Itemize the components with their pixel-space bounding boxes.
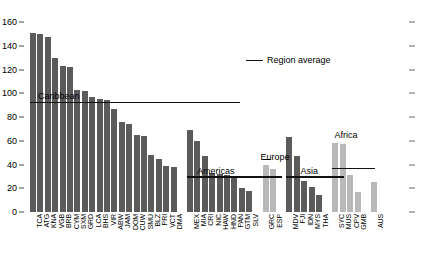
bar [355, 192, 361, 212]
y-axis-tick-mark [19, 93, 24, 94]
y-axis-tick-mark [19, 212, 24, 213]
bar-series [30, 22, 418, 212]
x-axis-category-label: BLZ [154, 214, 161, 227]
legend-label-region-average: Region average [267, 56, 331, 65]
y-axis-tick-mark [19, 45, 24, 46]
x-axis-category-label: CPV [353, 214, 360, 228]
bar [104, 100, 110, 212]
bar [111, 109, 117, 212]
x-axis-category-label: ATG [43, 214, 50, 228]
region-average-line [332, 168, 374, 169]
group-label-americas: Americas [197, 167, 235, 176]
y-axis-tick-label: 40 [7, 160, 17, 169]
bar [309, 187, 315, 212]
bar [97, 99, 103, 212]
group-label-europe: Europe [261, 153, 290, 162]
x-axis-category-label: SMU [147, 214, 154, 229]
x-axis-category-label: VGB [58, 214, 65, 228]
group-label-caribbean: Caribbean [38, 92, 80, 101]
region-average-line-icon [246, 60, 263, 62]
bar [156, 159, 162, 212]
bar [37, 34, 43, 212]
bar [148, 155, 154, 212]
y-axis-tick-mark [19, 164, 24, 165]
y-axis-tick-label: 160 [2, 18, 17, 27]
y-axis-tick-mark [19, 22, 24, 23]
x-axis-category-label: DMA [176, 214, 183, 229]
x-axis-category-label: MEX [193, 214, 200, 229]
y-axis-tick-label: 80 [7, 113, 17, 122]
x-axis-category-label: BRB [65, 214, 72, 228]
x-axis-category-label: SLV [252, 214, 259, 226]
region-average-line [187, 176, 282, 177]
bar [347, 175, 353, 212]
x-axis-category-label: CYM [73, 214, 80, 229]
bar [187, 130, 193, 212]
bar [163, 166, 169, 212]
bar [67, 67, 73, 212]
bar [217, 174, 223, 212]
plot-area: CaribbeanAmericasEuropeAsiaAfrica [30, 22, 418, 212]
x-axis-category-label: GTM [244, 214, 251, 229]
bar [134, 135, 140, 212]
bar [45, 37, 51, 212]
bar [239, 188, 245, 212]
x-axis-category-label: VCT [169, 214, 176, 228]
bar [209, 173, 215, 212]
x-axis-category-label: LCA [95, 214, 102, 227]
bar [119, 122, 125, 212]
group-label-asia: Asia [300, 167, 318, 176]
x-axis-category-label: FJI [299, 214, 306, 223]
bar [82, 91, 88, 212]
x-axis-category-label: MDV [292, 214, 299, 229]
y-axis-tick-mark [19, 69, 24, 70]
y-axis-tick-label: 20 [7, 184, 17, 193]
x-axis-category-label: IDN [307, 214, 314, 226]
x-axis-category-label: TCA [36, 214, 43, 228]
x-axis-category-label: GMB [360, 214, 367, 230]
region-average-line [286, 176, 344, 177]
y-axis-tick-label: 100 [2, 89, 17, 98]
bar [371, 182, 377, 212]
y-axis-tick-mark [19, 140, 24, 141]
bar [60, 66, 66, 212]
x-axis-category-label: CUW [139, 214, 146, 230]
x-axis-category-label: NIC [215, 214, 222, 226]
x-axis-category-label: DOM [132, 214, 139, 230]
x-axis-category-label: GRD [87, 214, 94, 229]
y-axis-tick-label: 140 [2, 41, 17, 50]
bar [74, 90, 80, 212]
bar [30, 33, 36, 212]
bar [231, 176, 237, 212]
x-axis-category-label: BHS [102, 214, 109, 228]
x-axis-category-label: AUS [377, 214, 384, 228]
bar [141, 136, 147, 212]
bar [126, 124, 132, 212]
x-axis-category-label: KNA [50, 214, 57, 228]
y-axis-tick-label: 60 [7, 136, 17, 145]
bar [224, 175, 230, 212]
bar [52, 58, 58, 212]
x-axis-category-label: PAN [237, 214, 244, 228]
x-axis-category-label: PRI [161, 214, 168, 225]
bar [316, 195, 322, 212]
x-axis-category-label: ABW [117, 214, 124, 230]
y-axis-tick-mark [19, 117, 24, 118]
bar [286, 137, 292, 212]
bar [171, 167, 177, 212]
x-axis-category-label: MYS [314, 214, 321, 229]
bar [263, 165, 269, 213]
bar [202, 156, 208, 212]
x-axis-labels: TCAATGKNAVGBBRBCYMSXMGRDLCABHSVIRABWJAMD… [0, 214, 423, 256]
x-axis-category-label: MUS [345, 214, 352, 229]
x-axis-category-label: VIR [110, 214, 117, 225]
x-axis-category-label: THA [322, 214, 329, 228]
x-axis-category-label: CRI [207, 214, 214, 226]
bar [89, 97, 95, 212]
region-average-line [30, 102, 240, 103]
group-label-africa: Africa [334, 131, 357, 140]
bar [294, 156, 300, 212]
y-axis-tick-label: 120 [2, 65, 17, 74]
bar-chart: 020406080100120140160 CaribbeanAmericasE… [0, 0, 423, 256]
bar [301, 181, 307, 212]
